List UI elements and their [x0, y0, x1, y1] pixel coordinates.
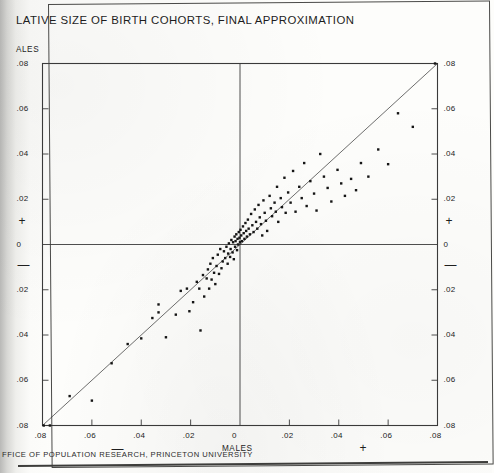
data-point	[261, 234, 263, 236]
data-point	[157, 311, 159, 313]
data-point	[203, 295, 205, 297]
data-point	[377, 148, 379, 150]
data-point	[217, 253, 219, 255]
data-point	[175, 313, 177, 315]
data-point	[287, 191, 289, 193]
y-axis-positive-sign-left: +	[19, 214, 26, 228]
data-point	[188, 310, 190, 312]
data-point	[270, 207, 272, 209]
data-point	[224, 257, 226, 259]
data-point	[233, 258, 235, 260]
x-tick-label: 0	[232, 431, 237, 440]
y-tick-label-left: 0	[17, 240, 22, 249]
data-point	[251, 224, 253, 226]
data-point	[246, 235, 248, 237]
data-point	[196, 281, 198, 283]
y-tick-label-left: .02	[17, 285, 29, 294]
data-point	[303, 162, 305, 164]
data-point	[209, 263, 211, 265]
data-point	[192, 301, 194, 303]
y-tick-label-left: .08	[17, 59, 29, 68]
data-point	[336, 169, 338, 171]
data-point	[235, 233, 237, 235]
data-point	[355, 189, 357, 191]
x-axis-positive-sign: +	[359, 441, 366, 455]
data-point	[266, 230, 268, 232]
y-tick-label-right: .02	[444, 285, 456, 294]
data-point	[232, 241, 234, 243]
data-point	[301, 197, 303, 199]
data-point	[140, 337, 142, 339]
data-point	[205, 277, 207, 279]
data-point	[230, 239, 232, 241]
x-tick-label: .04	[331, 431, 343, 440]
x-tick-label: .06	[380, 431, 392, 440]
data-point	[243, 238, 245, 240]
data-point	[367, 175, 369, 177]
data-point	[255, 221, 257, 223]
data-point	[323, 175, 325, 177]
y-axis-negative-sign-left: —	[18, 258, 30, 272]
data-point	[213, 272, 215, 274]
data-point	[257, 204, 259, 206]
data-point	[281, 206, 283, 208]
data-point	[241, 240, 243, 242]
data-point	[180, 290, 182, 292]
data-point	[68, 395, 70, 397]
data-point	[276, 186, 278, 188]
data-point	[226, 263, 228, 265]
data-point	[198, 287, 200, 289]
data-point	[319, 153, 321, 155]
y-tick-label-left: .04	[17, 330, 29, 339]
data-point	[91, 399, 93, 401]
data-point	[273, 201, 275, 203]
x-tick-label: .08	[430, 431, 442, 440]
y-axis-negative-sign-right: —	[445, 258, 457, 272]
data-point	[219, 248, 221, 250]
data-point	[225, 246, 227, 248]
y-tick-label-left: .08	[17, 421, 29, 430]
data-point	[212, 257, 214, 259]
data-point	[283, 177, 285, 179]
data-point	[326, 187, 328, 189]
data-point	[313, 192, 315, 194]
data-point	[234, 246, 236, 248]
data-point	[236, 249, 238, 251]
data-point	[210, 278, 212, 280]
data-point	[412, 126, 414, 128]
data-point	[249, 233, 251, 235]
data-point	[309, 180, 311, 182]
data-point	[157, 303, 159, 305]
y-tick-label-right: .06	[444, 375, 456, 384]
data-point	[262, 199, 264, 201]
y-axis-positive-sign-right: +	[446, 214, 453, 228]
data-point	[214, 283, 216, 285]
data-point	[202, 274, 204, 276]
data-point	[360, 162, 362, 164]
y-tick-label-right: .04	[444, 330, 456, 339]
data-point	[231, 251, 233, 253]
data-point	[315, 209, 317, 211]
data-point	[43, 424, 45, 426]
y-tick-label-right: .04	[444, 149, 456, 158]
data-point	[245, 230, 247, 232]
y-tick-label-right: .06	[444, 104, 456, 113]
data-point	[227, 252, 229, 254]
data-point	[207, 268, 209, 270]
data-point	[199, 329, 201, 331]
y-tick-label-left: .02	[17, 194, 29, 203]
data-point	[186, 287, 188, 289]
data-point	[397, 112, 399, 114]
data-point	[229, 256, 231, 258]
data-point	[237, 243, 239, 245]
data-point	[239, 229, 241, 231]
data-point	[344, 195, 346, 197]
y-tick-label-left: .04	[17, 149, 29, 158]
data-point	[254, 208, 256, 210]
y-tick-label-right: .02	[444, 194, 456, 203]
data-point	[259, 216, 261, 218]
data-point	[340, 182, 342, 184]
data-point	[280, 197, 282, 199]
data-point	[223, 250, 225, 252]
